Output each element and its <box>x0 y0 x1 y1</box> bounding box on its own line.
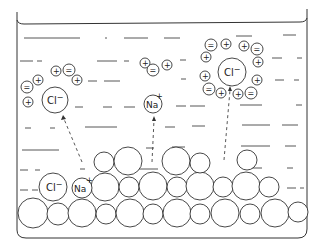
hydrated-chloride-left: Cl− = + + + = + <box>21 64 82 113</box>
crystal-surface-chloride: Cl− <box>39 173 67 201</box>
svg-text:+: + <box>218 89 225 98</box>
hydrated-sodium-center: Na + <box>144 92 163 113</box>
svg-text:=: = <box>150 66 157 75</box>
svg-text:=: = <box>254 45 261 54</box>
svg-text:+: + <box>202 72 209 81</box>
svg-text:=: = <box>66 66 73 75</box>
svg-text:+: + <box>86 176 93 185</box>
svg-text:+: + <box>25 98 32 107</box>
svg-text:Na: Na <box>74 184 86 194</box>
diagram-canvas: Cl− Na + Cl− = + + + = + + = + Na + <box>0 0 325 243</box>
svg-text:+: + <box>164 61 171 70</box>
svg-text:+: + <box>35 76 42 85</box>
dissolution-diagram: Cl− Na + Cl− = + + + = + + = + Na + <box>0 0 325 243</box>
water-surface <box>17 18 307 24</box>
svg-text:+: + <box>255 58 262 67</box>
svg-text:+: + <box>53 67 60 76</box>
svg-text:=: = <box>206 85 213 94</box>
svg-text:+: + <box>241 42 248 51</box>
svg-text:+: + <box>203 53 210 62</box>
svg-text:+: + <box>223 40 230 49</box>
svg-text:=: = <box>24 83 31 92</box>
svg-text:+: + <box>156 92 163 101</box>
water-molecule-free: + = + <box>140 58 172 76</box>
svg-text:=: = <box>248 89 255 98</box>
svg-text:Na: Na <box>146 100 158 110</box>
svg-text:+: + <box>254 76 261 85</box>
svg-text:+: + <box>74 76 81 85</box>
svg-text:+: + <box>235 90 242 99</box>
crystal-surface-sodium: Na + <box>72 176 93 198</box>
svg-text:=: = <box>208 41 215 50</box>
